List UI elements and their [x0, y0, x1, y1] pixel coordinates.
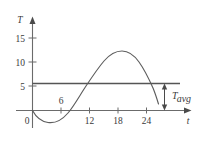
x-tick-label-6: 6 — [59, 96, 64, 106]
y-tick-label-10: 10 — [16, 58, 26, 68]
chart-svg: T t 5 10 15 0 6 12 18 24 Tavg — [0, 0, 203, 143]
temperature-curve — [33, 51, 159, 123]
x-tick-label-12: 12 — [85, 116, 95, 126]
t-avg-annotation: Tavg — [172, 90, 191, 104]
x-axis-label: t — [187, 116, 190, 126]
t-avg-subscript: avg — [177, 93, 191, 104]
t-avg-arrowhead-down — [162, 105, 167, 111]
y-tick-label-15: 15 — [16, 34, 26, 44]
origin-label: 0 — [25, 116, 30, 126]
x-tick-label-18: 18 — [113, 116, 123, 126]
y-axis-arrowhead — [30, 17, 36, 25]
y-axis-label: T — [17, 15, 23, 25]
y-tick-label-5: 5 — [20, 82, 25, 92]
t-avg-measure-arrow — [162, 84, 167, 111]
t-avg-arrowhead-up — [162, 84, 167, 90]
temperature-vs-time-chart: T t 5 10 15 0 6 12 18 24 Tavg — [0, 0, 203, 143]
x-tick-label-24: 24 — [142, 116, 152, 126]
x-axis-arrowhead — [184, 108, 192, 114]
